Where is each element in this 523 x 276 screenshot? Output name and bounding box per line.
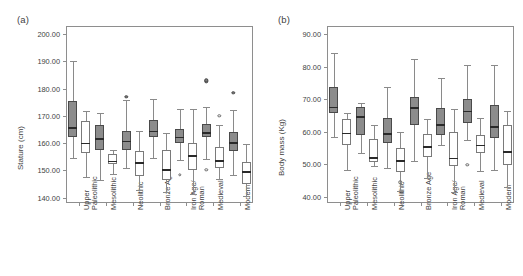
y-axis-tick-mark xyxy=(63,89,66,90)
boxplot-whisker-lower xyxy=(494,138,495,170)
y-axis-tick-label: 50.00 xyxy=(285,160,321,169)
boxplot-whisker-upper xyxy=(480,118,481,135)
boxplot-box-female xyxy=(449,132,458,166)
boxplot-whisker-cap-lower xyxy=(83,177,90,178)
x-axis-tick-label: Mesolithic xyxy=(110,177,118,210)
boxplot-whisker-cap-upper xyxy=(150,99,157,100)
y-axis-tick-label: 200.00 xyxy=(24,30,60,39)
y-axis-tick-label: 40.00 xyxy=(285,192,321,201)
boxplot-whisker-upper xyxy=(73,61,74,101)
boxplot-whisker-upper xyxy=(454,109,455,131)
boxplot-median-line xyxy=(356,116,365,118)
boxplot-box-male xyxy=(410,97,419,126)
boxplot-whisker-cap-upper xyxy=(177,109,184,110)
panel-a-y-axis-title: Stature (cm) xyxy=(16,126,25,170)
x-axis-tick-label: Medieval xyxy=(217,180,225,210)
boxplot-whisker-cap-upper xyxy=(464,65,471,66)
boxplot-whisker-lower xyxy=(193,170,194,194)
boxplot-whisker-cap-lower xyxy=(216,179,223,180)
y-axis-tick-mark xyxy=(324,197,327,198)
boxplot-whisker-upper xyxy=(246,144,247,161)
boxplot-median-line xyxy=(108,161,117,163)
boxplot-whisker-upper xyxy=(206,107,207,124)
boxplot-whisker-lower xyxy=(441,135,442,145)
x-axis-tick-mark xyxy=(240,203,241,206)
boxplot-whisker-cap-upper xyxy=(491,65,498,66)
boxplot-whisker-cap-upper xyxy=(123,100,130,101)
boxplot-whisker-lower xyxy=(139,176,140,190)
boxplot-whisker-upper xyxy=(126,100,127,131)
boxplot-whisker-cap-lower xyxy=(150,158,157,159)
boxplot-whisker-cap-lower xyxy=(163,192,170,193)
boxplot-whisker-cap-lower xyxy=(464,140,471,141)
boxplot-whisker-upper xyxy=(507,111,508,125)
x-axis-tick-mark xyxy=(106,203,107,206)
boxplot-whisker-lower xyxy=(387,143,388,168)
boxplot-median-line xyxy=(162,169,171,171)
x-axis-tick-label: Neolithic xyxy=(137,182,145,210)
boxplot-box-female xyxy=(162,150,171,180)
boxplot-median-line xyxy=(135,162,144,164)
boxplot-median-line xyxy=(383,133,392,135)
boxplot-whisker-cap-lower xyxy=(230,175,237,176)
boxplot-whisker-cap-upper xyxy=(83,111,90,112)
boxplot-whisker-cap-lower xyxy=(451,192,458,193)
boxplot-whisker-cap-upper xyxy=(97,113,104,114)
boxplot-whisker-cap-upper xyxy=(344,113,351,114)
boxplot-whisker-cap-lower xyxy=(358,153,365,154)
boxplot-median-line xyxy=(149,131,158,133)
boxplot-median-line xyxy=(503,151,512,153)
boxplot-whisker-cap-lower xyxy=(70,158,77,159)
boxplot-whisker-lower xyxy=(113,164,114,174)
boxplot-median-line xyxy=(122,141,131,143)
x-axis-tick-mark xyxy=(447,203,448,206)
y-axis-tick-mark xyxy=(324,164,327,165)
boxplot-whisker-cap-lower xyxy=(397,191,404,192)
boxplot-whisker-cap-lower xyxy=(203,159,210,160)
boxplot-whisker-cap-upper xyxy=(216,125,223,126)
boxplot-whisker-upper xyxy=(153,99,154,121)
boxplot-box-male xyxy=(436,108,445,135)
y-axis-tick-label: 60.00 xyxy=(285,127,321,136)
boxplot-whisker-lower xyxy=(153,137,154,158)
y-axis-tick-mark xyxy=(63,143,66,144)
boxplot-whisker-cap-lower xyxy=(110,174,117,175)
panel-b: (b) Body mass (Kg) 40.0050.0060.0070.008… xyxy=(261,0,522,276)
boxplot-whisker-cap-upper xyxy=(397,132,404,133)
boxplot-whisker-cap-upper xyxy=(477,118,484,119)
boxplot-median-line xyxy=(202,132,211,134)
boxplot-median-line xyxy=(188,155,197,157)
boxplot-whisker-lower xyxy=(206,137,207,159)
boxplot-whisker-cap-upper xyxy=(424,119,431,120)
y-axis-tick-mark xyxy=(63,34,66,35)
boxplot-whisker-upper xyxy=(414,59,415,97)
boxplot-whisker-upper xyxy=(441,78,442,108)
boxplot-whisker-lower xyxy=(361,135,362,153)
boxplot-figure: (a) Stature (cm) 140.00150.00160.00170.0… xyxy=(0,0,523,276)
y-axis-tick-label: 180.00 xyxy=(24,84,60,93)
y-axis-tick-label: 160.00 xyxy=(24,139,60,148)
boxplot-median-line xyxy=(463,111,472,113)
boxplot-whisker-cap-lower xyxy=(438,145,445,146)
boxplot-whisker-upper xyxy=(86,111,87,122)
boxplot-whisker-lower xyxy=(507,165,508,187)
boxplot-whisker-upper xyxy=(387,87,388,118)
y-axis-tick-mark xyxy=(324,34,327,35)
boxplot-box-male xyxy=(202,124,211,137)
y-axis-tick-label: 70.00 xyxy=(285,95,321,104)
boxplot-whisker-cap-upper xyxy=(358,103,365,104)
x-axis-tick-label: Medieval xyxy=(478,180,486,210)
boxplot-whisker-cap-lower xyxy=(123,168,130,169)
boxplot-whisker-cap-upper xyxy=(504,111,511,112)
boxplot-box-female xyxy=(108,154,117,165)
boxplot-median-line xyxy=(242,171,251,173)
boxplot-whisker-cap-lower xyxy=(477,171,484,172)
boxplot-whisker-cap-upper xyxy=(203,107,210,108)
boxplot-whisker-cap-upper xyxy=(451,109,458,110)
x-axis-tick-mark xyxy=(213,203,214,206)
boxplot-median-line xyxy=(449,158,458,160)
boxplot-median-line xyxy=(215,160,224,162)
boxplot-whisker-upper xyxy=(427,119,428,134)
boxplot-median-line xyxy=(436,124,445,126)
boxplot-whisker-cap-upper xyxy=(70,61,77,62)
